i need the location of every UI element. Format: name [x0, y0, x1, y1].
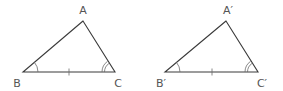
angle-c-arc-inner: [105, 63, 110, 72]
diagram-canvas: A B C A′ B′ C′: [0, 0, 283, 91]
triangle-abc: A B C: [13, 4, 122, 90]
vertex-label-b-prime: B′: [156, 77, 167, 90]
angle-b-arc: [34, 62, 38, 72]
vertex-label-b: B: [13, 77, 21, 90]
vertex-label-c: C: [114, 77, 122, 90]
vertex-label-c-prime: C′: [257, 77, 268, 90]
vertex-label-a-prime: A′: [223, 4, 234, 17]
angle-c-prime-arc-inner: [248, 63, 253, 72]
triangle-a-prime-b-prime-c-prime: A′ B′ C′: [156, 4, 268, 90]
triangle-abc-outline: [23, 21, 115, 72]
triangle-prime-outline: [165, 21, 258, 72]
angle-b-prime-arc: [177, 62, 181, 72]
vertex-label-a: A: [79, 4, 87, 17]
